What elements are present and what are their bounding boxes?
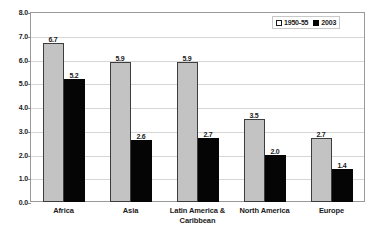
y-tick-label: 8.0 (2, 9, 28, 16)
bar: 2.0 (265, 155, 286, 203)
y-tick-label: 1.0 (2, 175, 28, 182)
bar-chart: 0.01.02.03.04.05.06.07.08.0 6.75.25.92.6… (0, 0, 379, 243)
bar: 2.6 (131, 140, 152, 202)
bar-group: 3.52.0 (231, 12, 298, 202)
bar-group: 5.92.7 (164, 12, 231, 202)
bars-layer: 6.75.25.92.65.92.73.52.02.71.4 (30, 12, 365, 202)
legend-label-2003: 2003 (321, 19, 336, 26)
bar: 1.4 (332, 169, 353, 202)
bar: 5.2 (64, 79, 85, 203)
y-tick-mark (28, 203, 31, 204)
bar-group: 6.75.2 (30, 12, 97, 202)
y-axis: 0.01.02.03.04.05.06.07.08.0 (0, 12, 28, 202)
bar: 2.7 (311, 138, 332, 202)
bar: 3.5 (244, 119, 265, 202)
legend-swatch-2003 (313, 20, 319, 26)
y-tick-label: 3.0 (2, 127, 28, 134)
bar-value-label: 2.7 (203, 131, 212, 138)
bar: 6.7 (43, 43, 64, 202)
bar-value-label: 6.7 (48, 36, 57, 43)
bar-group: 5.92.6 (97, 12, 164, 202)
bar-group: 2.71.4 (298, 12, 365, 202)
bar-value-label: 5.2 (69, 72, 78, 79)
bar: 2.7 (198, 138, 219, 202)
y-tick-label: 4.0 (2, 104, 28, 111)
y-tick-label: 7.0 (2, 32, 28, 39)
legend-swatch-1950-55 (276, 20, 282, 26)
legend-item-0: 1950-55 (276, 19, 308, 26)
bar-value-label: 5.9 (115, 55, 124, 62)
bar-value-label: 2.6 (136, 133, 145, 140)
bar: 5.9 (177, 62, 198, 202)
chart-legend: 1950-55 2003 (272, 16, 340, 29)
bar-value-label: 1.4 (337, 162, 346, 169)
bar-value-label: 5.9 (182, 55, 191, 62)
legend-label-1950-55: 1950-55 (284, 19, 308, 26)
x-axis-category-label: Europe (292, 206, 371, 216)
y-tick-label: 0.0 (2, 199, 28, 206)
bar-value-label: 2.0 (270, 148, 279, 155)
y-tick-label: 6.0 (2, 56, 28, 63)
bar-value-label: 3.5 (249, 112, 258, 119)
bar-value-label: 2.7 (316, 131, 325, 138)
legend-item-1: 2003 (313, 19, 336, 26)
bar: 5.9 (110, 62, 131, 202)
y-tick-label: 2.0 (2, 151, 28, 158)
y-tick-label: 5.0 (2, 80, 28, 87)
